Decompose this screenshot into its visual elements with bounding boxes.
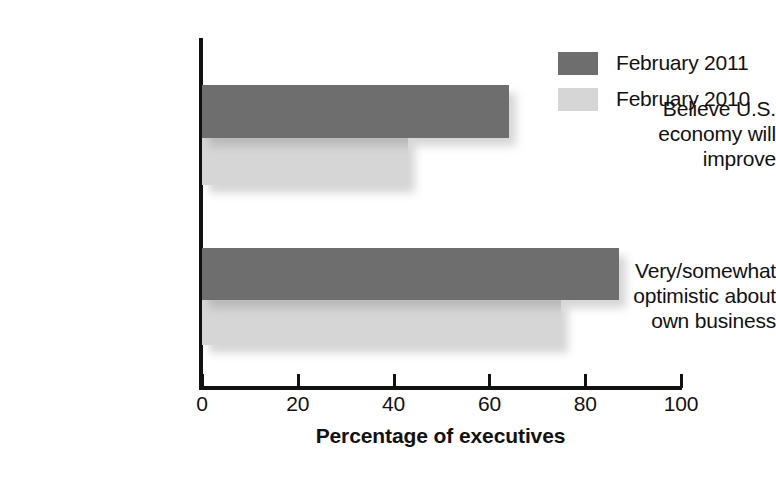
x-tick-100 bbox=[680, 374, 683, 388]
legend-swatch-icon-2010 bbox=[558, 88, 598, 111]
x-tick-label-60: 60 bbox=[459, 392, 519, 416]
legend-label-2011: February 2011 bbox=[616, 51, 748, 75]
bar-chart: 020406080100 Believe U.S.economy willimp… bbox=[0, 0, 776, 483]
bar-2011-group-2 bbox=[202, 248, 619, 300]
legend-item-2011[interactable]: February 2011 bbox=[558, 45, 750, 81]
legend-item-2010[interactable]: February 2010 bbox=[558, 81, 750, 117]
legend-label-2010: February 2010 bbox=[616, 87, 750, 111]
x-tick-0 bbox=[201, 374, 204, 388]
x-tick-label-40: 40 bbox=[364, 392, 424, 416]
x-tick-60 bbox=[488, 374, 491, 388]
x-tick-label-100: 100 bbox=[651, 392, 711, 416]
x-tick-40 bbox=[393, 374, 396, 388]
bar-2011-group-1 bbox=[202, 85, 509, 138]
x-axis-line bbox=[199, 386, 682, 390]
x-tick-label-0: 0 bbox=[172, 392, 232, 416]
legend-swatch-icon-2011 bbox=[558, 52, 598, 75]
x-tick-80 bbox=[584, 374, 587, 388]
x-axis-title: Percentage of executives bbox=[199, 424, 682, 448]
x-tick-label-20: 20 bbox=[268, 392, 328, 416]
x-tick-20 bbox=[297, 374, 300, 388]
x-tick-label-80: 80 bbox=[555, 392, 615, 416]
legend: February 2011 February 2010 bbox=[558, 45, 750, 117]
